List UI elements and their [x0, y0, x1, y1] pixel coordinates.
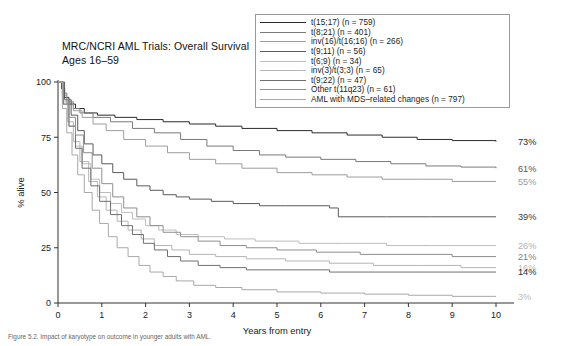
figure-container: MRC/NCRI AML Trials: Overall Survival Ag… — [0, 0, 574, 346]
y-axis-label: % alive — [15, 177, 26, 207]
y-tick-label: 0 — [46, 298, 51, 308]
chart-plot: 0255075100012345678910% aliveYears from … — [0, 0, 574, 346]
y-tick-label: 25 — [41, 243, 51, 253]
x-tick-label: 6 — [318, 310, 323, 320]
series-end-label: 26% — [518, 241, 536, 251]
x-tick-label: 3 — [187, 310, 192, 320]
x-tick-label: 7 — [362, 310, 367, 320]
series-end-label: 21% — [518, 252, 536, 262]
series-end-label: 55% — [518, 177, 536, 187]
series-end-label: 3% — [518, 292, 531, 302]
series-end-label: 61% — [518, 164, 536, 174]
x-tick-label: 1 — [99, 310, 104, 320]
y-tick-label: 100 — [36, 77, 51, 87]
x-tick-label: 5 — [274, 310, 279, 320]
series-end-label: 39% — [518, 212, 536, 222]
series-line — [58, 82, 496, 168]
series-line — [58, 82, 496, 181]
figure-caption: Figure 5.2. Impact of karyotype on outco… — [8, 333, 211, 340]
series-end-label: 14% — [518, 267, 536, 277]
series-line — [58, 82, 496, 296]
x-tick-label: 0 — [55, 310, 60, 320]
x-tick-label: 9 — [450, 310, 455, 320]
y-tick-label: 75 — [41, 133, 51, 143]
series-end-label: 73% — [518, 137, 536, 147]
x-axis-label: Years from entry — [243, 325, 312, 336]
x-tick-label: 2 — [143, 310, 148, 320]
x-tick-label: 8 — [406, 310, 411, 320]
x-tick-label: 4 — [231, 310, 236, 320]
y-tick-label: 50 — [41, 188, 51, 198]
x-tick-label: 10 — [491, 310, 501, 320]
